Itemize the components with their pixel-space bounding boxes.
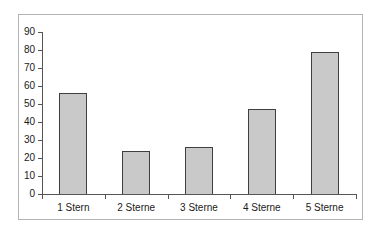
y-tick-label: 10 xyxy=(14,170,35,182)
y-tick-label: 0 xyxy=(14,188,35,200)
x-category-label: 5 Sterne xyxy=(293,202,356,214)
x-tick xyxy=(230,195,231,199)
y-tick xyxy=(38,68,43,69)
bar-1 xyxy=(59,93,87,194)
y-tick xyxy=(38,32,43,33)
y-tick-label: 50 xyxy=(14,98,35,110)
x-tick xyxy=(42,195,43,199)
y-tick-label: 20 xyxy=(14,152,35,164)
bar-5 xyxy=(311,52,339,194)
bar-3 xyxy=(185,147,213,194)
x-tick xyxy=(293,195,294,199)
y-tick-label: 30 xyxy=(14,134,35,146)
x-category-label: 1 Stern xyxy=(42,202,105,214)
y-tick xyxy=(38,122,43,123)
x-category-label: 4 Sterne xyxy=(230,202,293,214)
y-tick xyxy=(38,104,43,105)
y-tick xyxy=(38,50,43,51)
x-category-label: 3 Sterne xyxy=(168,202,231,214)
bar-4 xyxy=(248,109,276,194)
y-tick xyxy=(38,140,43,141)
x-tick xyxy=(356,195,357,199)
y-tick-label: 40 xyxy=(14,116,35,128)
x-category-label: 2 Sterne xyxy=(105,202,168,214)
y-tick-label: 70 xyxy=(14,62,35,74)
bar-2 xyxy=(122,151,150,194)
y-tick xyxy=(38,86,43,87)
chart-frame: 01020304050607080901 Stern2 Sterne3 Ster… xyxy=(18,14,363,220)
y-tick-label: 80 xyxy=(14,44,35,56)
y-tick xyxy=(38,176,43,177)
y-tick-label: 90 xyxy=(14,26,35,38)
x-tick xyxy=(168,195,169,199)
y-tick-label: 60 xyxy=(14,80,35,92)
x-tick xyxy=(105,195,106,199)
y-tick xyxy=(38,158,43,159)
